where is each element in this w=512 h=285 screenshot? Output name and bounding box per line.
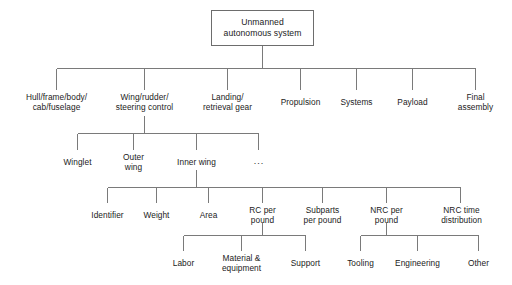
node-inner-wing[interactable]: Inner wing (164, 157, 229, 167)
node-engineering[interactable]: Engineering (386, 258, 449, 268)
node-payload[interactable]: Payload (386, 97, 439, 107)
node-labor[interactable]: Labor (159, 258, 208, 268)
node-landing-retrieval-gear[interactable]: Landing/ retrieval gear (185, 92, 270, 113)
node-final-assembly[interactable]: Final assembly (446, 92, 505, 113)
node-rc-per-pound[interactable]: RC per pound (235, 205, 290, 226)
node-propulsion[interactable]: Propulsion (268, 97, 333, 107)
diagram-canvas: Unmanned autonomous system Hull/frame/bo… (0, 0, 512, 285)
node-other[interactable]: Other (455, 258, 502, 268)
node-weight[interactable]: Weight (131, 210, 182, 220)
node-tooling[interactable]: Tooling (336, 258, 385, 268)
node-area[interactable]: Area (187, 210, 230, 220)
node-systems[interactable]: Systems (329, 97, 384, 107)
node-winglet[interactable]: Winglet (47, 157, 108, 167)
node-subparts-per-pound[interactable]: Subparts per pound (291, 205, 354, 226)
node-material-and-equipment[interactable]: Material & equipment (211, 253, 272, 274)
node-nrc-time-distribution[interactable]: NRC time distribution (427, 205, 496, 226)
node-wing-rudder-steering-control[interactable]: Wing/rudder/ steering control (98, 92, 191, 113)
node-nrc-per-pound[interactable]: NRC per pound (358, 205, 415, 226)
node-support[interactable]: Support (279, 258, 332, 268)
node-hull-frame-body-cab-fuselage[interactable]: Hull/frame/body/ cab/fuselage (6, 92, 107, 113)
node-outer-wing[interactable]: Outer wing (110, 152, 157, 173)
node-identifier[interactable]: Identifier (79, 210, 136, 220)
node-root-box[interactable]: Unmanned autonomous system (211, 10, 314, 46)
node-ellipsis[interactable]: ... (251, 156, 267, 166)
node-root-label: Unmanned autonomous system (224, 17, 302, 40)
